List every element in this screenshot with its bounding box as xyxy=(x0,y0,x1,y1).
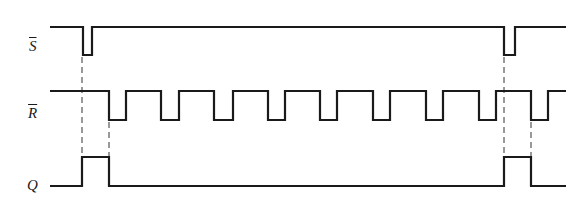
waveforms xyxy=(50,27,566,186)
signal-label-r-bar: R xyxy=(28,106,37,121)
signal-label-s-bar: S xyxy=(29,39,37,54)
signal-label-q: Q xyxy=(27,178,38,193)
guide-lines xyxy=(82,57,531,157)
timing-diagram xyxy=(0,0,583,201)
waveform-s-bar xyxy=(50,27,566,55)
waveform-r-bar xyxy=(50,91,566,120)
waveform-q xyxy=(50,157,566,186)
